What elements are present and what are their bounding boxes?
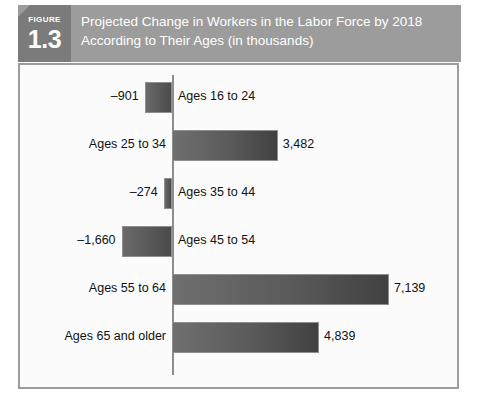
bar-row: Ages 45 to 54–1,660 — [20, 218, 457, 266]
bar-row: Ages 35 to 44–274 — [20, 170, 457, 218]
value-label: 3,482 — [278, 137, 314, 151]
value-label: 4,839 — [319, 329, 355, 343]
bar — [122, 226, 172, 257]
category-label: Ages 25 to 34 — [89, 137, 172, 151]
bar — [145, 82, 172, 113]
value-label: –1,660 — [77, 233, 121, 247]
bar-row: Ages 16 to 24–901 — [20, 74, 457, 122]
figure-title: Projected Change in Workers in the Labor… — [81, 12, 451, 50]
figure-title-line-1: Projected Change in Workers in the Labor… — [81, 12, 451, 31]
bar-chart-plot: Ages 16 to 24–901Ages 25 to 343,482Ages … — [20, 65, 457, 387]
bar — [172, 322, 319, 353]
value-label: –901 — [111, 89, 145, 103]
bar — [172, 130, 278, 161]
bar — [172, 274, 389, 305]
value-label: –274 — [130, 185, 164, 199]
value-label: 7,139 — [389, 281, 425, 295]
category-label: Ages 55 to 64 — [89, 281, 172, 295]
bar-row: Ages 65 and older4,839 — [20, 314, 457, 362]
figure-title-line-2: According to Their Ages (in thousands) — [81, 31, 451, 50]
figure-number-badge: FIGURE 1.3 — [18, 5, 71, 62]
bar — [164, 178, 172, 209]
chart-frame: Ages 16 to 24–901Ages 25 to 343,482Ages … — [18, 63, 459, 389]
category-label: Ages 16 to 24 — [172, 89, 255, 103]
figure-badge-number: 1.3 — [18, 26, 71, 53]
figure-container: FIGURE 1.3 Projected Change in Workers i… — [0, 0, 479, 401]
bar-row: Ages 55 to 647,139 — [20, 266, 457, 314]
category-label: Ages 65 and older — [65, 329, 172, 343]
bar-row: Ages 25 to 343,482 — [20, 122, 457, 170]
category-label: Ages 35 to 44 — [172, 185, 255, 199]
category-label: Ages 45 to 54 — [172, 233, 255, 247]
figure-badge-word: FIGURE — [18, 15, 71, 24]
